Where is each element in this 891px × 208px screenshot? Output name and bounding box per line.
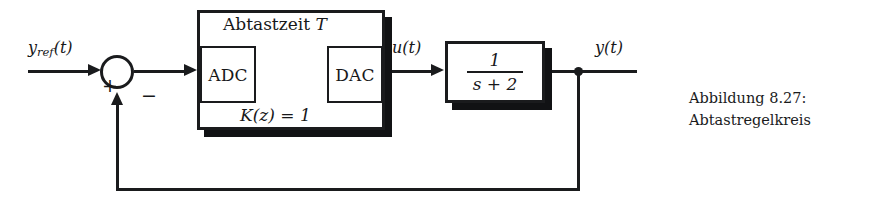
wire-plant-output — [545, 70, 637, 73]
control-signal-label: u(t) — [392, 40, 421, 56]
figure-canvas: + − Abtastzeit T K(z) = 1 ADC DAC 1 s + … — [0, 0, 891, 208]
output-signal-label: y(t) — [595, 40, 623, 56]
summing-junction-plus-sign: + — [102, 76, 118, 95]
dac-block: DAC — [327, 46, 383, 103]
adc-block: ADC — [200, 46, 256, 103]
wire-feedback-bottom — [116, 188, 580, 191]
reference-signal-label: yref(t) — [28, 40, 73, 59]
plant-numerator: 1 — [484, 51, 507, 70]
wire-feedback-up — [116, 104, 119, 191]
plant-block: 1 s + 2 — [445, 41, 545, 103]
figure-caption-line-1: Abbildung 8.27: — [689, 88, 811, 110]
wire-error-to-adc — [134, 70, 186, 73]
sampling-time-symbol: T — [315, 14, 326, 34]
arrowhead-error-to-adc — [184, 64, 197, 76]
arrowhead-control-to-plant — [431, 64, 444, 76]
sampling-time-text: Abtastzeit — [223, 14, 310, 34]
sampling-time-label: Abtastzeit T — [223, 16, 327, 33]
reference-signal-argument: (t) — [54, 38, 73, 57]
adc-label: ADC — [208, 65, 248, 85]
figure-caption-line-2: Abtastregelkreis — [689, 110, 811, 132]
plant-denominator: s + 2 — [467, 74, 524, 93]
reference-signal-base: y — [28, 38, 37, 57]
controller-transfer-function-label: K(z) = 1 — [240, 107, 311, 124]
wire-reference-input — [28, 70, 90, 73]
figure-caption: Abbildung 8.27: Abtastregelkreis — [689, 88, 811, 132]
plant-transfer-function: 1 s + 2 — [467, 51, 524, 94]
reference-signal-subscript: ref — [37, 45, 54, 59]
wire-feedback-down — [577, 70, 580, 191]
summing-junction-minus-sign: − — [141, 86, 157, 105]
dac-label: DAC — [335, 65, 375, 85]
fraction-bar — [467, 71, 524, 73]
